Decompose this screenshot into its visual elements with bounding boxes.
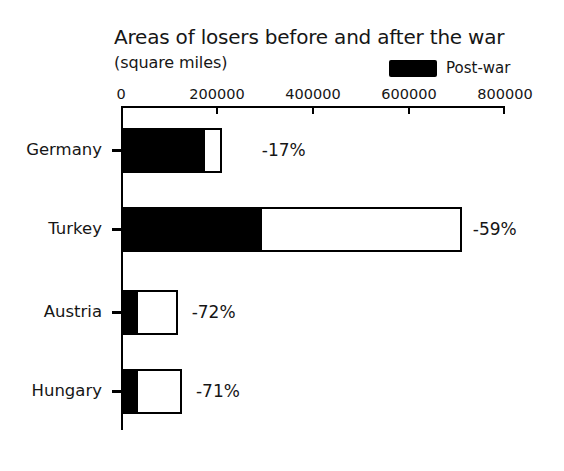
bar-group-austria bbox=[121, 290, 178, 335]
x-tick-label-4: 800000 bbox=[477, 86, 532, 102]
x-axis-cap-right bbox=[503, 106, 505, 114]
bar-postwar-turkey bbox=[121, 207, 262, 252]
chart-title: Areas of losers before and after the war bbox=[114, 26, 504, 48]
pct-change-hungary: -71% bbox=[196, 382, 240, 401]
category-label-germany: Germany bbox=[26, 141, 102, 159]
x-tick-mark-1 bbox=[216, 106, 218, 114]
chart-legend: Post-war bbox=[389, 60, 510, 77]
bar-postwar-germany bbox=[121, 128, 205, 173]
bar-postwar-hungary bbox=[121, 369, 138, 414]
category-label-hungary: Hungary bbox=[32, 382, 102, 400]
pct-change-austria: -72% bbox=[192, 303, 236, 322]
bar-postwar-austria bbox=[121, 290, 138, 335]
chart-subtitle-units: (square miles) bbox=[114, 54, 227, 72]
x-tick-mark-3 bbox=[408, 106, 410, 114]
bar-chart: Areas of losers before and after the war… bbox=[0, 0, 564, 471]
x-tick-mark-2 bbox=[312, 106, 314, 114]
x-tick-label-2: 400000 bbox=[285, 86, 340, 102]
category-label-austria: Austria bbox=[44, 303, 102, 321]
bar-group-hungary bbox=[121, 369, 182, 414]
legend-label-postwar: Post-war bbox=[446, 60, 510, 77]
bar-group-germany bbox=[121, 128, 222, 173]
legend-swatch-postwar-icon bbox=[389, 60, 437, 77]
bar-group-turkey bbox=[121, 207, 462, 252]
x-tick-label-3: 600000 bbox=[381, 86, 436, 102]
category-label-turkey: Turkey bbox=[48, 220, 102, 238]
x-tick-label-1: 200000 bbox=[189, 86, 244, 102]
pct-change-turkey: -59% bbox=[473, 220, 517, 239]
x-tick-label-0: 0 bbox=[116, 86, 125, 102]
pct-change-germany: -17% bbox=[262, 141, 306, 160]
